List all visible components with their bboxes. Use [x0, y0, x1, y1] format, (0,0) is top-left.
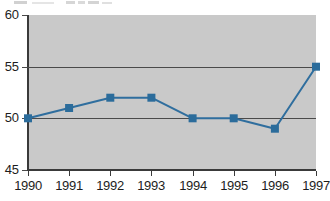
data-point-marker [312, 63, 320, 71]
data-point-marker [230, 114, 238, 122]
data-point-marker [189, 114, 197, 122]
data-point-marker [271, 125, 279, 133]
series-line [28, 67, 316, 129]
data-point-marker [65, 104, 73, 112]
data-point-marker [147, 94, 155, 102]
series-markers [24, 63, 320, 133]
data-point-marker [24, 114, 32, 122]
data-point-marker [106, 94, 114, 102]
